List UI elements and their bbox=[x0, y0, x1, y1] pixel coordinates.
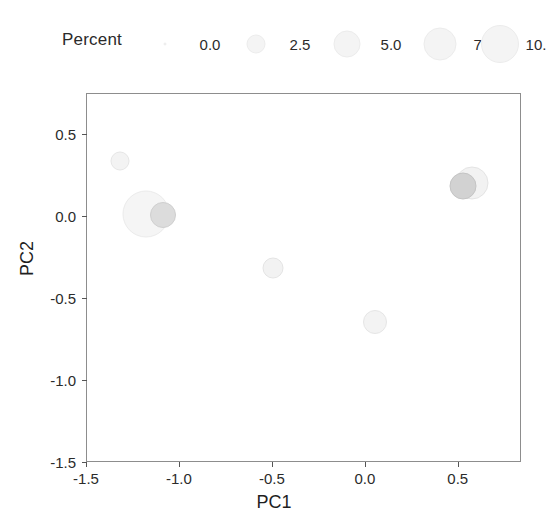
x-tick-label: -0.5 bbox=[237, 470, 307, 487]
y-tick-mark bbox=[82, 134, 87, 135]
legend-label-text: 0.0 bbox=[200, 36, 221, 53]
legend-bubble-glyph bbox=[334, 31, 361, 58]
x-tick-label: 0.0 bbox=[330, 470, 400, 487]
legend: Percent 0.02.55.07.510. bbox=[0, 0, 548, 88]
y-tick-label: -1.0 bbox=[16, 372, 76, 389]
data-point bbox=[363, 310, 387, 334]
legend-bubble-glyph bbox=[164, 43, 167, 46]
legend-label-text: 2.5 bbox=[290, 36, 311, 53]
y-tick-mark bbox=[82, 298, 87, 299]
legend-label-text: 5.0 bbox=[381, 36, 402, 53]
x-tick-mark bbox=[86, 462, 87, 467]
x-tick-label: -1.0 bbox=[144, 470, 214, 487]
x-tick-label: -1.5 bbox=[51, 470, 121, 487]
y-axis-label: PC2 bbox=[17, 214, 38, 304]
data-point bbox=[111, 152, 130, 171]
legend-label-text: 10. bbox=[526, 36, 547, 53]
x-tick-mark bbox=[179, 462, 180, 467]
y-tick-mark bbox=[82, 216, 87, 217]
plot-area bbox=[86, 93, 521, 462]
data-point bbox=[150, 202, 176, 228]
data-point bbox=[262, 257, 283, 278]
x-axis-label: PC1 bbox=[0, 492, 548, 513]
x-tick-mark bbox=[365, 462, 366, 467]
legend-title: Percent bbox=[62, 30, 122, 50]
chart-root: Percent 0.02.55.07.510. 0.50.0-0.5-1.0-1… bbox=[0, 0, 548, 532]
y-tick-label: 0.5 bbox=[16, 126, 76, 143]
legend-bubble-glyph bbox=[247, 35, 266, 54]
y-tick-label: -1.5 bbox=[16, 454, 76, 471]
data-point bbox=[449, 172, 476, 199]
x-tick-label: 0.5 bbox=[423, 470, 493, 487]
legend-label-4: 10. bbox=[506, 20, 548, 68]
x-tick-mark bbox=[272, 462, 273, 467]
legend-bubble-glyph bbox=[424, 28, 457, 61]
y-tick-mark bbox=[82, 380, 87, 381]
x-tick-mark bbox=[458, 462, 459, 467]
